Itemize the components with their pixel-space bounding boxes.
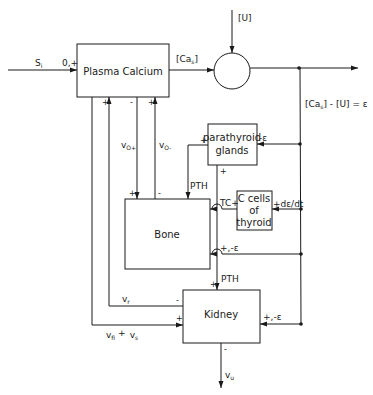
sign-kidney-out-minus: - (224, 345, 227, 354)
sign-parathyroid-down-plus: + (220, 167, 227, 176)
sign-vo-minus: - (130, 98, 133, 107)
pth-kidney-label: PTH (221, 274, 239, 284)
sign-vr-plus: + (102, 98, 109, 107)
pth-bone-label: PTH (190, 181, 208, 191)
summing-junction (214, 53, 250, 89)
c-cells-label-1: C cells (238, 193, 271, 204)
parathyroid-label-1: parathyroid (203, 132, 261, 143)
sign-bone-minus: - (158, 189, 161, 198)
kidney-error-label: +,-ε (263, 312, 282, 322)
sign-vo-plus: + (148, 98, 155, 107)
bone-label: Bone (154, 229, 179, 240)
sign-kidney-top-plus: + (210, 280, 217, 289)
bone-error-label: +,-ε (220, 243, 239, 253)
parathyroid-glands-block: parathyroid glands (203, 124, 261, 165)
input-s-label: Si (35, 58, 43, 69)
sign-kidney-vr-minus: - (176, 296, 179, 305)
c-cells-label-2: of (249, 205, 259, 216)
u-input-label: [U] (238, 13, 252, 23)
vo-plus-label: vO+ (121, 140, 136, 151)
parathyroid-input-label: -ε (259, 133, 267, 143)
calcium-regulation-diagram: Plasma Calcium parathyroid glands C cell… (0, 0, 373, 395)
plasma-calcium-label: Plasma Calcium (83, 66, 162, 77)
kidney-label: Kidney (204, 309, 238, 320)
tc-label: TC+ (219, 198, 239, 208)
vo-minus-label: vO- (159, 140, 171, 151)
plasma-input-sign: 0,+ (62, 58, 78, 68)
vu-label: vu (225, 370, 234, 381)
bone-block: Bone (125, 199, 210, 269)
sign-parathyroid-plus: + (200, 136, 207, 145)
c-cells-thyroid-block: C cells of thyroid (236, 191, 272, 230)
kidney-block: Kidney (183, 290, 260, 343)
plasma-calcium-block: Plasma Calcium (77, 44, 169, 97)
vr-label: vr (122, 294, 130, 305)
c-cells-input-label: +dε/dt (273, 199, 304, 209)
error-equation: [Cas] - [U] = ε (305, 99, 368, 110)
parathyroid-label-2: glands (215, 145, 248, 156)
c-cells-label-3: thyroid (236, 217, 271, 228)
cas-label: [Cas] (176, 54, 198, 65)
sign-kidney-vfi-plus: + (176, 314, 183, 323)
sign-bone-plus: + (129, 189, 136, 198)
vfi-vs-label: vfi+vs (106, 328, 138, 341)
